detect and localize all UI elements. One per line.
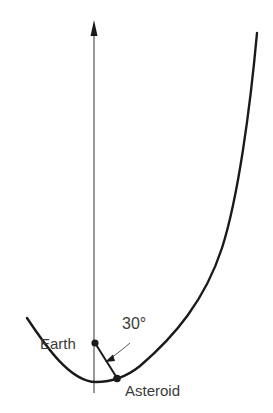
angle-label: 30° [122,316,146,332]
angle-pointer-line [111,343,130,358]
asteroid-label: Asteroid [125,383,180,398]
asteroid-point [113,375,121,383]
axis-arrowhead-icon [91,20,98,36]
earth-point [91,339,98,346]
earth-label: Earth [40,336,76,351]
